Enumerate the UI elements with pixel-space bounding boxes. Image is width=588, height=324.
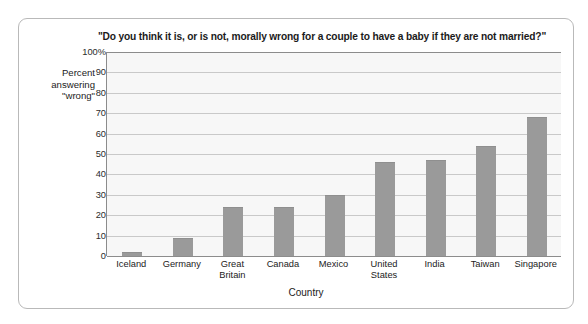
gridline (107, 93, 561, 94)
gridline (107, 52, 561, 53)
gridline (107, 134, 561, 135)
gridline (107, 256, 561, 257)
x-axis-tick-label-line: Singapore (508, 259, 564, 270)
x-axis-tick-label-line: Iceland (103, 259, 159, 270)
y-axis-tick-label: 30 (60, 190, 106, 200)
y-axis-tick-label: 10 (60, 231, 106, 241)
x-axis-tick-label-line: Taiwan (457, 259, 513, 270)
y-axis-tick-label: 50 (60, 149, 106, 159)
x-axis-tick-label: Mexico (306, 259, 362, 270)
y-axis-tick-label: 20 (60, 210, 106, 220)
bar (173, 238, 193, 256)
bar (527, 117, 547, 256)
x-axis-tick-label: UnitedStates (356, 259, 412, 280)
x-axis-tick-label-line: Canada (255, 259, 311, 270)
y-axis-tick-label: 40 (60, 169, 106, 179)
x-axis-tick-label-line: Mexico (306, 259, 362, 270)
bar (325, 195, 345, 256)
x-axis-tick-label-line: Great (204, 259, 260, 270)
y-axis-tick-label: 80 (60, 88, 106, 98)
x-axis-tick-label: Canada (255, 259, 311, 270)
x-axis-tick-label: Singapore (508, 259, 564, 270)
x-axis-tick-label-line: Germany (154, 259, 210, 270)
bar (274, 207, 294, 256)
y-axis-tick-label: 100% (60, 47, 106, 57)
gridline (107, 113, 561, 114)
bar (122, 252, 142, 256)
x-axis-tick-label-line: States (356, 270, 412, 281)
x-axis-tick-label: Germany (154, 259, 210, 270)
x-axis-tick-label: Taiwan (457, 259, 513, 270)
bar (223, 207, 243, 256)
chart-figure-frame: "Do you think it is, or is not, morally … (18, 18, 574, 309)
y-axis-tick-label: 70 (60, 108, 106, 118)
y-axis-tick-label: 90 (60, 67, 106, 77)
x-axis-tick-label-line: United (356, 259, 412, 270)
bar (426, 160, 446, 256)
plot-area (106, 52, 561, 256)
bar (476, 146, 496, 256)
x-axis-title: Country (106, 287, 506, 298)
y-axis-tick-labels: 0102030405060708090100% (52, 52, 106, 256)
y-axis-tick-label: 0 (60, 251, 106, 261)
x-axis-tick-label: India (407, 259, 463, 270)
gridline (107, 72, 561, 73)
bar (375, 162, 395, 256)
chart-title: "Do you think it is, or is not, morally … (79, 31, 565, 42)
x-axis-tick-label: GreatBritain (204, 259, 260, 280)
x-axis-tick-label: Iceland (103, 259, 159, 270)
y-axis-tick-label: 60 (60, 129, 106, 139)
x-axis-tick-label-line: India (407, 259, 463, 270)
x-axis-tick-label-line: Britain (204, 270, 260, 281)
x-axis-tick-labels: IcelandGermanyGreatBritainCanadaMexicoUn… (106, 259, 561, 289)
